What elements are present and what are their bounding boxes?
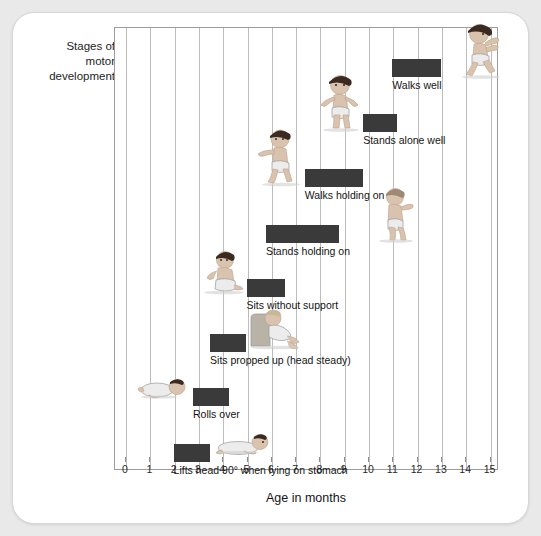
gridline-month-15 <box>491 28 492 469</box>
x-tick-label: 11 <box>387 463 398 475</box>
milestone-bar <box>392 59 441 77</box>
gridline-month-11 <box>393 28 394 469</box>
milestone-label: Stands alone well <box>363 134 445 146</box>
x-tick-label: 14 <box>459 463 471 475</box>
milestone-label: Walks well <box>392 79 441 91</box>
x-tick-label: 12 <box>411 463 423 475</box>
tick-mark-14 <box>465 457 466 462</box>
milestone-label: Rolls over <box>193 408 240 420</box>
milestone-bar <box>247 279 286 297</box>
gridline-month-5 <box>248 28 249 469</box>
milestone-label: Sits propped up (head steady) <box>210 354 351 366</box>
gridline-month-13 <box>442 28 443 469</box>
tick-mark-9 <box>344 457 345 462</box>
tick-mark-8 <box>319 457 320 462</box>
tick-mark-6 <box>271 457 272 462</box>
milestone-bar <box>210 334 246 352</box>
milestone-bar <box>266 225 339 243</box>
x-tick-label: 13 <box>435 463 447 475</box>
milestone-bar <box>363 114 397 132</box>
tick-mark-12 <box>417 457 418 462</box>
x-axis-title: Age in months <box>114 491 498 505</box>
tick-mark-10 <box>368 457 369 462</box>
gridline-month-2 <box>175 28 176 469</box>
x-tick-label: 0 <box>122 463 128 475</box>
tick-mark-5 <box>247 457 248 462</box>
tick-mark-13 <box>441 457 442 462</box>
milestone-label: Lifts head 90° when lying on stomach <box>174 464 348 476</box>
chart-card: Stages of motor development 012345678910… <box>12 12 529 524</box>
tick-mark-15 <box>490 457 491 462</box>
y-axis-title: Stages of motor development <box>31 39 115 84</box>
milestone-bar <box>193 388 229 406</box>
gridline-month-14 <box>466 28 467 469</box>
milestone-label: Sits without support <box>247 299 339 311</box>
tick-mark-11 <box>392 457 393 462</box>
gridline-month-12 <box>418 28 419 469</box>
tick-mark-4 <box>222 457 223 462</box>
x-tick-label: 1 <box>146 463 152 475</box>
tick-mark-1 <box>149 457 150 462</box>
tick-mark-7 <box>295 457 296 462</box>
milestone-label: Walks holding on <box>305 189 385 201</box>
x-tick-label: 15 <box>484 463 496 475</box>
gridline-month-10 <box>369 28 370 469</box>
tick-mark-0 <box>125 457 126 462</box>
milestone-bar <box>174 444 210 462</box>
milestone-bar <box>305 169 363 187</box>
milestone-label: Stands holding on <box>266 245 350 257</box>
x-tick-label: 10 <box>362 463 374 475</box>
gridline-month-1 <box>150 28 151 469</box>
gridline-month-0 <box>126 28 127 469</box>
